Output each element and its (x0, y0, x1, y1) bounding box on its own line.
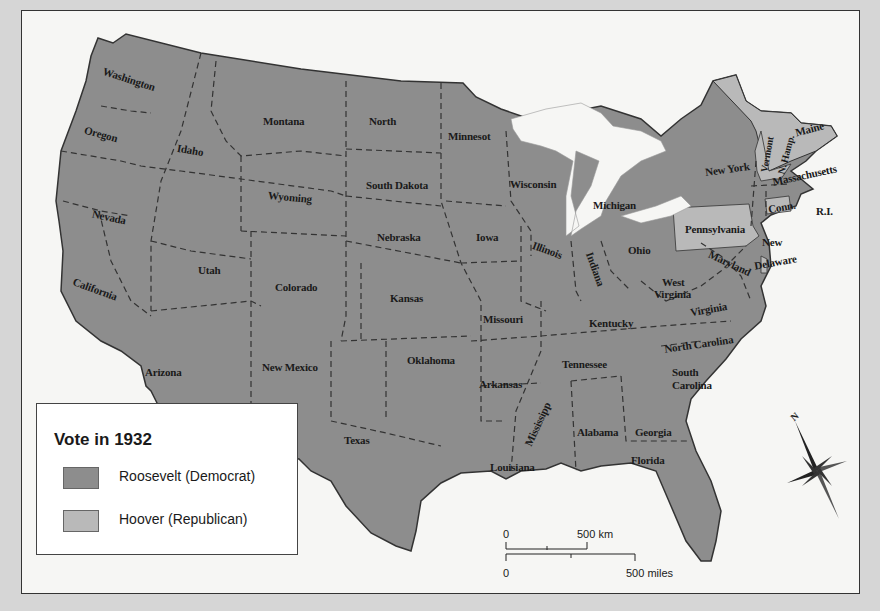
label-rhode-island: R.I. (816, 205, 833, 217)
label-north-dakota: North (369, 115, 396, 127)
label-west-virginia-2: Virginia (654, 288, 691, 300)
label-pennsylvania: Pennsylvania (685, 223, 745, 235)
scale-km-zero: 0 (503, 528, 509, 540)
scale-mi-zero: 0 (503, 567, 509, 579)
scale-km-label: 500 km (577, 528, 613, 540)
legend-label-democrat: Roosevelt (Democrat) (119, 468, 255, 484)
legend-title: Vote in 1932 (54, 430, 152, 450)
legend-swatch-republican (63, 510, 99, 532)
label-nebraska: Nebraska (377, 231, 421, 243)
label-missouri: Missouri (483, 313, 523, 325)
compass-rose-icon (787, 421, 847, 519)
legend-swatch-democrat (63, 467, 99, 489)
label-georgia: Georgia (635, 426, 671, 438)
label-tennessee: Tennessee (562, 358, 607, 370)
label-texas: Texas (344, 434, 370, 446)
label-oklahoma: Oklahoma (407, 354, 455, 366)
label-florida: Florida (631, 454, 664, 466)
label-utah: Utah (198, 264, 220, 276)
label-wisconsin: Wisconsin (510, 178, 556, 190)
label-kansas: Kansas (390, 292, 423, 304)
label-south-carolina-1: South (672, 366, 699, 378)
label-iowa: Iowa (476, 231, 498, 243)
label-kentucky: Kentucky (589, 317, 633, 329)
label-south-carolina-2: Carolina (672, 379, 712, 391)
label-arizona: Arizona (145, 366, 181, 378)
legend-label-republican: Hoover (Republican) (119, 511, 247, 527)
label-ohio: Ohio (628, 244, 650, 256)
map-legend: Vote in 1932 Roosevelt (Democrat) Hoover… (36, 403, 298, 555)
label-west-virginia-1: West (662, 276, 684, 288)
label-new-jersey: New (762, 236, 782, 248)
label-alabama: Alabama (577, 426, 618, 438)
label-south-dakota: South Dakota (366, 179, 428, 191)
label-louisiana: Louisiana (490, 461, 535, 473)
label-arkansas: Arkansas (479, 378, 522, 390)
scale-mi-label: 500 miles (626, 567, 673, 579)
label-colorado: Colorado (275, 281, 317, 293)
label-michigan: Michigan (593, 199, 636, 211)
scale-bar (506, 542, 635, 561)
label-new-mexico: New Mexico (262, 361, 318, 373)
label-minnesota: Minnesot (448, 130, 490, 142)
label-montana: Montana (263, 115, 304, 127)
